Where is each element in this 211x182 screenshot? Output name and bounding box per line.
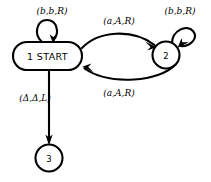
state-node-3[interactable]: 3 <box>36 145 63 172</box>
edge-1-to-2-path <box>82 34 155 48</box>
transition-label-2-to-1: (a,A,R) <box>103 88 135 98</box>
state-1-label: 1 START <box>27 51 68 62</box>
state-node-2[interactable]: 2 <box>153 42 180 69</box>
state-3-label: 3 <box>46 154 51 164</box>
transition-label-loop-state-1: (b,b,R) <box>36 6 68 16</box>
state-diagram-canvas: 1 START 2 3 (b,b,R) (a,A,R) (a,A,R) (b,b… <box>0 0 211 182</box>
transition-1-to-3 <box>45 70 52 146</box>
transition-label-1-to-3: (Δ,Δ,L) <box>19 93 51 103</box>
state-2-label: 2 <box>163 51 168 61</box>
transition-1-to-2 <box>82 34 157 51</box>
state-node-1[interactable]: 1 START <box>13 42 82 70</box>
transition-label-loop-state-2: (b,b,R) <box>164 6 196 16</box>
self-loop-state-1 <box>37 20 58 44</box>
transition-label-1-to-2: (a,A,R) <box>103 16 135 26</box>
turing-machine-diagram: 1 START 2 3 (b,b,R) (a,A,R) (a,A,R) (b,b… <box>0 0 211 182</box>
